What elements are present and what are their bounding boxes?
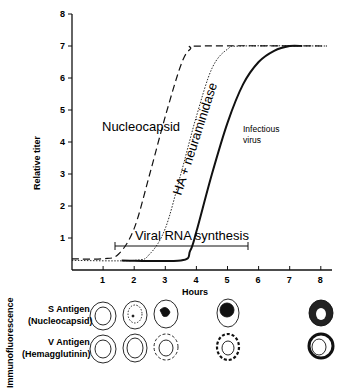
nucleocapsid-label: Nucleocapsid [102, 119, 180, 134]
ha-label: HA + neuraminidase [170, 81, 221, 197]
svg-text:6: 6 [60, 73, 65, 83]
svg-text:4: 4 [193, 275, 198, 285]
svg-text:7: 7 [287, 275, 292, 285]
s-antigen-label: S Antigen [48, 304, 90, 314]
infectious-label-1: Infectious [243, 124, 279, 134]
svg-text:1: 1 [100, 275, 105, 285]
cell-drawings [90, 299, 333, 363]
infectious-label-2: virus [243, 135, 261, 145]
rna-label: Viral RNA synthesis [135, 228, 249, 243]
v-antigen-sub: (Hemagglutinin) [22, 349, 91, 359]
svg-text:6: 6 [256, 275, 261, 285]
svg-text:1: 1 [60, 233, 65, 243]
v-antigen-label: V Antigen [48, 337, 90, 347]
svg-text:5: 5 [225, 275, 230, 285]
svg-text:3: 3 [60, 169, 65, 179]
titer-chart: 12345678 12345678 Viral RNA synthesis Nu… [0, 0, 351, 390]
y-axis-label: Relative titer [32, 135, 42, 190]
s-antigen-sub: (Nucleocapsid) [28, 316, 93, 326]
x-axis-label: Hours [182, 287, 208, 297]
immuno-label: Immunofluorescence [5, 297, 15, 388]
y-ticks: 12345678 [60, 9, 72, 243]
svg-text:7: 7 [60, 41, 65, 51]
svg-text:4: 4 [60, 137, 65, 147]
x-ticks: 12345678 [100, 266, 323, 285]
svg-text:8: 8 [60, 9, 65, 19]
svg-text:3: 3 [162, 275, 167, 285]
svg-text:5: 5 [60, 105, 65, 115]
svg-text:2: 2 [60, 201, 65, 211]
svg-text:2: 2 [131, 275, 136, 285]
svg-text:8: 8 [318, 275, 323, 285]
rna-synthesis-range [115, 242, 248, 250]
